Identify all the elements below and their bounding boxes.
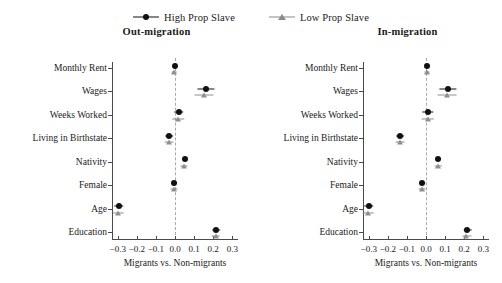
panel-title-out-migration: Out-migration: [0, 26, 251, 37]
y-axis-tick: [108, 232, 112, 233]
circle-marker-icon: [166, 133, 172, 139]
x-axis-tick-label: −0.3: [361, 244, 377, 254]
x-axis-tick: [407, 236, 408, 240]
y-axis-tick: [359, 91, 363, 92]
triangle-marker-icon: [425, 116, 431, 121]
y-axis-category-label: Education: [68, 227, 107, 237]
legend-entry-high-prop-slave: High Prop Slave: [133, 12, 235, 23]
triangle-marker-icon: [181, 163, 187, 168]
y-axis-tick: [108, 91, 112, 92]
y-axis-category-label: Age: [91, 204, 107, 214]
y-axis-tick: [359, 138, 363, 139]
x-axis-tick-label: 0.2: [459, 244, 470, 254]
plot-area-out-migration: Migrants vs. Non-migrants −0.3−0.2−0.10.…: [112, 58, 238, 240]
triangle-marker-icon: [424, 70, 430, 75]
x-axis-tick: [232, 236, 233, 240]
x-axis-tick: [426, 236, 427, 240]
triangle-marker-icon: [463, 234, 469, 239]
circle-marker-icon: [176, 109, 182, 115]
y-axis-spine: [363, 62, 364, 240]
circle-marker-icon: [419, 180, 425, 186]
x-axis-tick-label: −0.2: [129, 244, 145, 254]
circle-marker-icon: [213, 227, 219, 233]
circle-marker-icon: [435, 156, 441, 162]
y-axis-category-label: Female: [330, 180, 358, 190]
y-axis-tick: [359, 232, 363, 233]
x-axis-tick: [445, 236, 446, 240]
x-axis-tick: [137, 236, 138, 240]
figure-root: High Prop Slave Low Prop Slave Out-migra…: [0, 0, 502, 283]
y-axis-category-label: Wages: [82, 86, 107, 96]
y-axis-category-label: Nativity: [76, 157, 107, 167]
y-axis-category-label: Monthly Rent: [54, 63, 107, 73]
y-axis-tick: [108, 138, 112, 139]
triangle-marker-icon: [365, 210, 371, 215]
circle-marker-icon: [182, 156, 188, 162]
x-axis-tick: [194, 236, 195, 240]
y-axis-spine: [112, 62, 113, 240]
circle-marker-icon: [425, 109, 431, 115]
panel-out-migration: Out-migration Migrants vs. Non-migrants …: [0, 26, 251, 276]
x-axis-label-out-migration: Migrants vs. Non-migrants: [112, 258, 238, 268]
x-axis-tick-label: −0.1: [148, 244, 164, 254]
x-axis-label-in-migration: Migrants vs. Non-migrants: [363, 258, 489, 268]
y-axis-category-label: Female: [79, 180, 107, 190]
circle-marker-icon: [464, 227, 470, 233]
y-axis-tick: [108, 115, 112, 116]
circle-marker-icon: [445, 86, 451, 92]
x-axis-tick: [388, 236, 389, 240]
y-axis-tick: [359, 209, 363, 210]
y-axis-tick: [359, 185, 363, 186]
triangle-marker-icon: [166, 140, 172, 145]
panel-title-in-migration: In-migration: [251, 26, 502, 37]
x-axis-tick-label: 0.2: [208, 244, 219, 254]
y-axis-tick: [108, 68, 112, 69]
y-axis-category-label: Living in Birthstate: [284, 133, 358, 143]
circle-marker-icon: [133, 12, 159, 22]
x-axis-tick-label: 0.0: [420, 244, 431, 254]
triangle-marker-icon: [201, 93, 207, 98]
y-axis-tick: [359, 115, 363, 116]
panel-in-migration: In-migration Migrants vs. Non-migrants −…: [251, 26, 502, 276]
circle-marker-icon: [424, 63, 430, 69]
triangle-marker-icon: [419, 187, 425, 192]
y-axis-category-label: Wages: [333, 86, 358, 96]
triangle-marker-icon: [397, 140, 403, 145]
y-axis-category-label: Education: [319, 227, 358, 237]
zero-reference-line: [426, 58, 427, 240]
chart-legend: High Prop Slave Low Prop Slave: [0, 6, 502, 28]
y-axis-tick: [108, 185, 112, 186]
x-axis-tick-label: 0.1: [188, 244, 199, 254]
plot-area-in-migration: Migrants vs. Non-migrants −0.3−0.2−0.10.…: [363, 58, 489, 240]
circle-marker-icon: [366, 203, 372, 209]
y-axis-category-label: Weeks Worked: [50, 110, 107, 120]
x-axis-tick-label: 0.3: [478, 244, 489, 254]
x-axis-tick-label: 0.0: [169, 244, 180, 254]
legend-entry-low-prop-slave: Low Prop Slave: [269, 12, 369, 23]
triangle-marker-icon: [171, 70, 177, 75]
circle-marker-icon: [116, 203, 122, 209]
legend-label-low-prop-slave: Low Prop Slave: [300, 12, 369, 23]
x-axis-tick: [118, 236, 119, 240]
x-axis-tick: [369, 236, 370, 240]
zero-reference-line: [175, 58, 176, 240]
circle-marker-icon: [171, 180, 177, 186]
triangle-marker-icon: [213, 234, 219, 239]
legend-label-high-prop-slave: High Prop Slave: [164, 12, 235, 23]
x-axis-tick-label: 0.3: [227, 244, 238, 254]
triangle-marker-icon: [444, 93, 450, 98]
y-axis-category-label: Living in Birthstate: [33, 133, 107, 143]
x-axis-tick: [156, 236, 157, 240]
y-axis-category-label: Monthly Rent: [305, 63, 358, 73]
y-axis-tick: [108, 162, 112, 163]
x-axis-tick: [175, 236, 176, 240]
triangle-marker-icon: [115, 210, 121, 215]
triangle-marker-icon: [435, 163, 441, 168]
x-axis-tick-label: −0.3: [110, 244, 126, 254]
triangle-marker-icon: [175, 116, 181, 121]
x-axis-tick-label: −0.2: [380, 244, 396, 254]
circle-marker-icon: [203, 86, 209, 92]
y-axis-tick: [359, 68, 363, 69]
y-axis-tick: [108, 209, 112, 210]
y-axis-tick: [359, 162, 363, 163]
